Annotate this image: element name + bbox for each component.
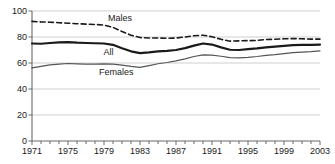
x-tick-label: 1999	[267, 147, 301, 156]
series-label-females: Females	[99, 68, 134, 77]
x-tick-label: 1983	[123, 147, 157, 156]
series-label-males: Males	[108, 14, 132, 23]
series-lines	[32, 21, 320, 68]
y-tick-label: 60	[1, 59, 27, 68]
series-line-all	[32, 42, 320, 53]
y-tick-label: 20	[1, 111, 27, 120]
y-tick-label: 0	[1, 137, 27, 146]
x-tick-label: 1979	[87, 147, 121, 156]
series-line-females	[32, 51, 320, 68]
x-tick-label: 1987	[159, 147, 193, 156]
y-tick-label: 80	[1, 33, 27, 42]
x-axis-ticks	[32, 141, 320, 145]
x-tick-label: 1995	[231, 147, 265, 156]
gridlines	[32, 11, 320, 115]
x-tick-label: 1991	[195, 147, 229, 156]
x-tick-label: 2003	[303, 147, 335, 156]
series-label-all: All	[104, 48, 114, 57]
y-tick-label: 100	[1, 7, 27, 16]
y-tick-label: 40	[1, 85, 27, 94]
x-tick-label: 1971	[15, 147, 49, 156]
x-tick-label: 1975	[51, 147, 85, 156]
series-line-males	[32, 21, 320, 41]
